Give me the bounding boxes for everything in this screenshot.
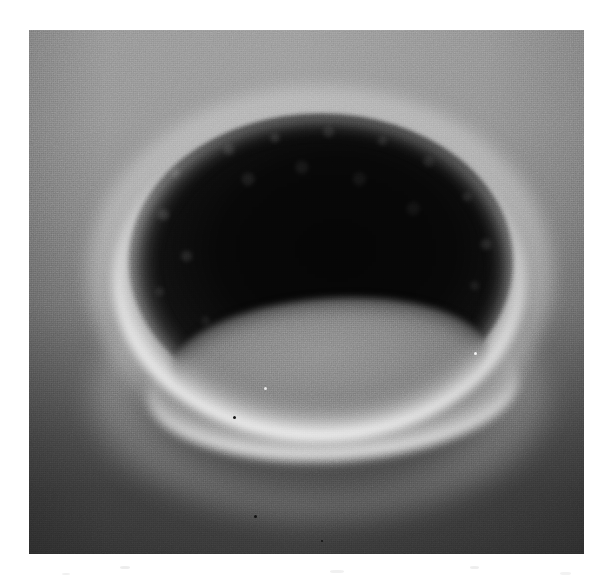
bright-speck-floor bbox=[264, 387, 267, 390]
figure-page bbox=[0, 0, 612, 582]
dark-speck-bottom bbox=[321, 540, 323, 542]
paper-fleck bbox=[470, 566, 479, 569]
paper-fleck bbox=[330, 570, 344, 573]
paper-fleck bbox=[120, 566, 130, 569]
sem-micrograph-panel bbox=[29, 30, 584, 554]
paper-fleck bbox=[560, 572, 571, 575]
crater-rim-crescent-highlight bbox=[113, 120, 525, 442]
dark-speck-lower-surface bbox=[254, 515, 257, 518]
bright-speck-right-wall bbox=[474, 352, 477, 355]
paper-fleck bbox=[62, 573, 70, 575]
dark-speck-floor bbox=[233, 416, 236, 419]
